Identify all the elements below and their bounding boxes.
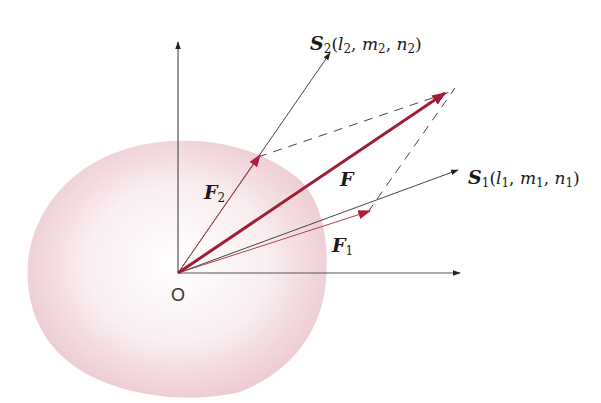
s1-m: m bbox=[520, 168, 536, 188]
s2-n-sub: 2 bbox=[407, 42, 415, 56]
s2-symbol: S bbox=[310, 32, 324, 54]
body-shape bbox=[28, 141, 327, 398]
s1-n: n bbox=[554, 168, 565, 188]
f1-label: F1 bbox=[332, 236, 353, 257]
force-decomposition-diagram bbox=[0, 0, 601, 403]
s2-m: m bbox=[362, 34, 378, 54]
s1-label: S1(l1, m1, n1) bbox=[468, 168, 580, 189]
s2-m-sub: 2 bbox=[378, 42, 386, 56]
s1-symbol: S bbox=[468, 166, 482, 188]
s2-coords: (l2, m2, n2) bbox=[331, 34, 421, 54]
s2-l-sub: 2 bbox=[343, 42, 351, 56]
s1-m-sub: 1 bbox=[536, 176, 544, 190]
f1-symbol: F bbox=[332, 234, 346, 256]
s1-n-sub: 1 bbox=[565, 176, 573, 190]
f-label: F bbox=[340, 170, 354, 189]
f2-label: F2 bbox=[204, 183, 225, 204]
dashed-line-f2-to-f bbox=[258, 92, 450, 157]
f2-symbol: F bbox=[204, 181, 218, 203]
s2-label: S2(l2, m2, n2) bbox=[310, 34, 422, 55]
s2-n: n bbox=[396, 34, 407, 54]
s1-l-sub: 1 bbox=[501, 176, 509, 190]
f2-subscript: 2 bbox=[218, 191, 226, 205]
s1-coords: (l1, m1, n1) bbox=[489, 168, 579, 188]
dashed-line-f1-to-f bbox=[368, 88, 455, 212]
f-symbol: F bbox=[340, 168, 354, 190]
f1-subscript: 1 bbox=[346, 244, 354, 258]
origin-label: O bbox=[171, 286, 185, 304]
